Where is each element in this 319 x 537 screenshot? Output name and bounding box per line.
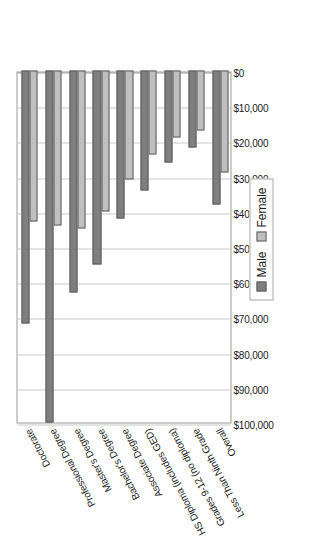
legend-label-male: Male — [254, 251, 268, 277]
category-axis-labels: OverallLess Than Ninth GradeGrades 9-12 … — [16, 425, 231, 485]
bar-group — [208, 72, 232, 422]
bar-group — [136, 72, 160, 422]
bar-male — [140, 70, 148, 190]
x-tick-label: $90,000 — [233, 384, 268, 395]
x-tick-label: $10,000 — [233, 102, 268, 113]
x-tick-label: $70,000 — [233, 313, 268, 324]
x-tick-label: $0 — [233, 67, 244, 78]
legend-label-female: Female — [254, 187, 268, 227]
bar-group — [160, 72, 184, 422]
category-label: Overall — [214, 426, 238, 458]
bar-female — [220, 70, 228, 172]
bar-male — [45, 70, 53, 422]
bar-group — [17, 72, 41, 422]
bar-male — [188, 70, 196, 147]
bar-female — [101, 70, 109, 211]
female-swatch-icon — [256, 231, 266, 241]
bars-layer — [17, 72, 230, 422]
bar-female — [124, 70, 132, 179]
bar-group — [65, 72, 89, 422]
bar-male — [69, 70, 77, 292]
bar-female — [196, 70, 204, 130]
bar-male — [92, 70, 100, 264]
bar-female — [53, 70, 61, 225]
bar-male — [212, 70, 220, 204]
x-tick-label: $20,000 — [233, 137, 268, 148]
bar-male — [21, 70, 29, 323]
bar-female — [77, 70, 85, 228]
bar-female — [148, 70, 156, 154]
x-tick-label: $100,000 — [233, 419, 273, 430]
male-swatch-icon — [256, 281, 266, 291]
bar-group — [89, 72, 113, 422]
legend-entry-male: Male — [254, 251, 268, 291]
bar-group — [113, 72, 137, 422]
legend-entry-female: Female — [254, 187, 268, 241]
bar-female — [172, 70, 180, 137]
bar-group — [41, 72, 65, 422]
bar-male — [164, 70, 172, 162]
chart-legend: Male Female — [249, 178, 273, 300]
bar-group — [184, 72, 208, 422]
x-tick-label: $80,000 — [233, 349, 268, 360]
plot-area — [16, 71, 231, 423]
bar-female — [29, 70, 37, 221]
bar-male — [116, 70, 124, 218]
